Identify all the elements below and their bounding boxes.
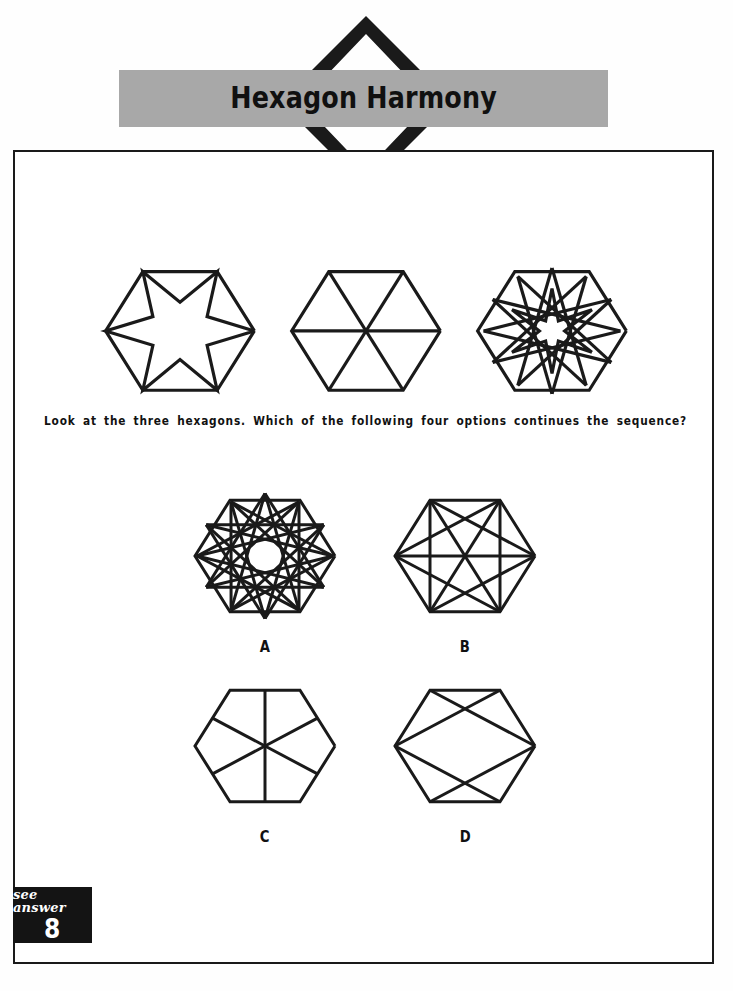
sequence-row: [28, 252, 703, 412]
option-b-svg: [385, 482, 545, 632]
puzzle-frame: Look at the three hexagons. Which of the…: [13, 150, 714, 964]
question-text: Look at the three hexagons. Which of the…: [43, 414, 688, 428]
options-grid: A B C D: [165, 482, 565, 846]
chevron-up-icon: [304, 16, 428, 78]
option-c-label: C: [260, 828, 270, 846]
options-row-bottom: C D: [165, 672, 565, 846]
sequence-hexagon-1: [95, 252, 265, 412]
option-d-svg: [385, 672, 545, 822]
sequence-hexagon-2: [281, 252, 451, 412]
option-a-svg: [185, 482, 345, 632]
option-b-figure: [385, 482, 545, 632]
page-title: Hexagon Harmony: [230, 82, 497, 116]
sequence-hexagon-3-svg: [467, 252, 637, 412]
option-d-label: D: [460, 828, 471, 846]
option-c-svg: [185, 672, 345, 822]
puzzle-page: Hexagon Harmony Look at the three hexago…: [0, 0, 733, 991]
option-b-label: B: [460, 638, 470, 656]
see-answer-badge[interactable]: see answer 8: [13, 887, 92, 943]
options-row-top: A B: [165, 482, 565, 656]
option-b[interactable]: B: [380, 482, 550, 656]
title-banner: Hexagon Harmony: [119, 70, 608, 127]
option-c-figure: [185, 672, 345, 822]
option-a-figure: [185, 482, 345, 632]
option-a[interactable]: A: [180, 482, 350, 656]
see-answer-caption: see answer: [13, 888, 92, 914]
sequence-hexagon-3: [467, 252, 637, 412]
see-answer-number: 8: [44, 916, 60, 942]
option-d-figure: [385, 672, 545, 822]
sequence-hexagon-1-svg: [95, 252, 265, 412]
sequence-hexagon-2-svg: [281, 252, 451, 412]
option-c[interactable]: C: [180, 672, 350, 846]
option-d[interactable]: D: [380, 672, 550, 846]
option-a-label: A: [260, 638, 270, 656]
